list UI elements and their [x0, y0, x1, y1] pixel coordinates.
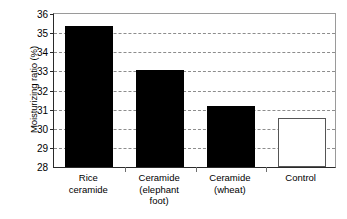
bar [207, 106, 255, 167]
x-axis-category-label-line: foot) [124, 195, 195, 207]
y-tick-label: 29 [37, 142, 48, 153]
y-tick-label: 28 [37, 162, 48, 173]
x-axis-category-label-line: Control [265, 172, 336, 184]
bar-chart: Moisturizing ratio (%) 28293031323334353… [0, 0, 347, 219]
plot-area: 282930313233343536 [53, 13, 336, 168]
y-tick-label: 31 [37, 104, 48, 115]
plot-inner: 282930313233343536 [54, 14, 335, 167]
y-tick-label: 35 [37, 28, 48, 39]
bar [65, 26, 113, 167]
y-tick-mark [50, 33, 54, 34]
y-tick-label: 34 [37, 47, 48, 58]
y-tick-label: 32 [37, 85, 48, 96]
bar [278, 118, 326, 167]
y-tick-mark [50, 110, 54, 111]
x-axis-category-label-line: Rice [53, 172, 124, 184]
y-tick-label: 36 [37, 9, 48, 20]
y-tick-mark [50, 14, 54, 15]
y-tick-label: 30 [37, 123, 48, 134]
x-axis-category-label-line: Ceramide [195, 172, 266, 184]
y-tick-mark [50, 91, 54, 92]
x-axis-category-label-line: (wheat) [195, 184, 266, 196]
x-axis-category-label-line: ceramide [53, 184, 124, 196]
x-axis-category-label: Riceceramide [53, 172, 124, 195]
y-tick-mark [50, 71, 54, 72]
x-axis-category-label: Ceramide(wheat) [195, 172, 266, 195]
bar [136, 70, 184, 167]
y-tick-label: 33 [37, 66, 48, 77]
y-tick-mark [50, 148, 54, 149]
x-axis-category-label: Ceramide(elephantfoot) [124, 172, 195, 207]
x-axis-category-label-line: (elephant [124, 184, 195, 196]
x-axis-category-label: Control [265, 172, 336, 184]
y-tick-mark [50, 52, 54, 53]
y-tick-mark [50, 129, 54, 130]
x-axis-category-label-line: Ceramide [124, 172, 195, 184]
